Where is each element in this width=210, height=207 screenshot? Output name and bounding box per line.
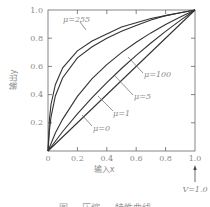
y-tick-label: 0.8 xyxy=(30,34,43,43)
y-tick-label: 0.6 xyxy=(30,62,43,71)
v-annotation-arrow xyxy=(193,165,196,182)
x-tick-label: 0.8 xyxy=(159,154,172,163)
label-mu-100: μ=100 xyxy=(144,70,171,79)
label-mu-0: μ=0 xyxy=(93,124,110,133)
y-tick-label: 0.2 xyxy=(30,118,43,127)
curves xyxy=(48,10,195,151)
label-mu-1: μ=1 xyxy=(113,109,130,118)
label-leaders xyxy=(80,22,143,126)
x-tick-label: 0.6 xyxy=(130,154,143,163)
y-tick-label: 0.4 xyxy=(30,90,43,99)
mu-law-chart: 1.0 0.8 0.6 0.4 0.2 0 0.2 0.4 0.6 0.8 1.… xyxy=(0,0,210,207)
x-axis-label: 输入x xyxy=(94,164,115,174)
x-tick-label: 0 xyxy=(45,154,50,163)
v-annotation-label: V=1.0 xyxy=(182,185,207,194)
label-mu-5: μ=5 xyxy=(134,92,151,101)
y-axis-label: 输出y xyxy=(8,69,18,90)
x-tick-label: 0.4 xyxy=(100,154,113,163)
x-tick-label: 1.0 xyxy=(189,154,202,163)
figure-caption: 图 … 压缩 … 特性曲线 xyxy=(59,202,151,207)
label-mu-255: μ=255 xyxy=(63,15,90,24)
x-tick-label: 0.2 xyxy=(71,154,84,163)
y-tick-label: 1.0 xyxy=(30,6,43,15)
